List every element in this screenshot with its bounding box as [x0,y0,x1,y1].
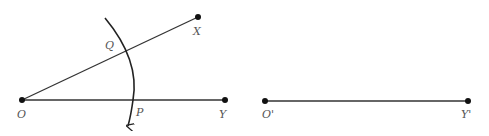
left-figure: O X Y Q P [17,14,228,126]
label-x: X [192,25,202,38]
point-y [222,97,228,103]
point-y-prime [465,98,471,104]
point-o [19,97,25,103]
label-q: Q [105,39,114,52]
label-p: P [135,106,144,119]
point-o-prime [262,98,268,104]
label-y-prime: Y' [461,108,471,121]
compass-arc [105,18,134,126]
point-x [195,14,201,20]
ray-ox [22,17,198,100]
right-figure: O' Y' [262,98,471,121]
label-y: Y [219,108,228,121]
angle-construction-diagram: O X Y Q P O' Y' [0,0,489,136]
label-o: O [17,108,26,121]
label-o-prime: O' [262,108,274,121]
